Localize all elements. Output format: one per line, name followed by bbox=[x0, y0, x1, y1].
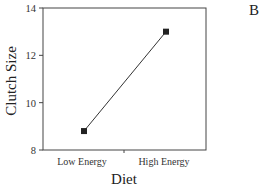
series-line bbox=[84, 32, 166, 131]
data-point-marker bbox=[81, 128, 87, 134]
x-axis-title: Diet bbox=[111, 171, 138, 187]
x-tick-label: High Energy bbox=[138, 156, 189, 167]
y-axis-ticks: 8101214 bbox=[26, 3, 44, 156]
y-tick-label: 8 bbox=[31, 145, 36, 156]
x-axis-ticks: Low EnergyHigh Energy bbox=[57, 150, 189, 167]
panel-label: B bbox=[249, 2, 259, 19]
y-tick-label: 12 bbox=[26, 50, 37, 61]
data-series bbox=[81, 29, 169, 134]
x-tick-label: Low Energy bbox=[57, 156, 107, 167]
data-point-marker bbox=[163, 29, 169, 35]
y-axis-title: Clutch Size bbox=[3, 46, 19, 116]
line-chart: 8101214 Low EnergyHigh Energy Clutch Siz… bbox=[0, 0, 264, 190]
y-tick-label: 14 bbox=[26, 3, 37, 14]
y-tick-label: 10 bbox=[26, 98, 37, 109]
plot-frame bbox=[43, 8, 206, 150]
